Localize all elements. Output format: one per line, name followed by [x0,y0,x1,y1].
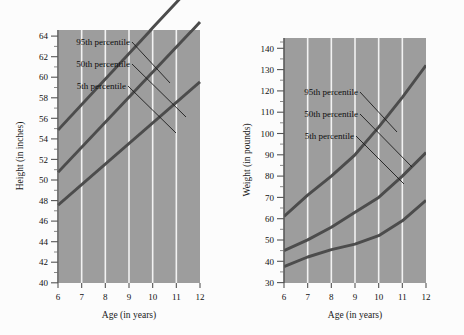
y-tick-label: 40 [39,278,49,288]
x-tick-label: 8 [103,292,108,302]
y-tick-label: 140 [261,44,275,54]
height-y-axis [51,30,58,283]
y-tick-label: 56 [39,114,49,124]
y-tick-label: 30 [265,278,275,288]
y-tick-label: 110 [261,107,275,117]
y-tick-label: 70 [265,193,275,203]
weight-x-tick-labels: 6 7 8 9 10 11 12 [282,292,431,302]
x-tick-label: 7 [79,292,84,302]
y-tick-label: 46 [39,216,49,226]
weight-x-axis [284,283,426,288]
y-tick-label: 50 [265,235,275,245]
y-tick-label: 48 [39,196,49,206]
x-tick-label: 12 [422,292,431,302]
y-tick-label: 60 [265,214,275,224]
x-tick-label: 10 [374,292,384,302]
height-chart-svg: 64 62 60 58 56 54 52 50 48 46 44 42 40 H… [0,0,232,335]
y-tick-label: 120 [261,86,275,96]
x-tick-label: 11 [172,292,181,302]
x-tick-label: 7 [305,292,310,302]
weight-x-axis-label: Age (in years) [328,310,382,321]
y-tick-label: 62 [39,52,48,62]
y-tick-label: 60 [39,72,49,82]
x-tick-label: 9 [353,292,358,302]
y-tick-label: 42 [39,257,48,267]
weight-chart-panel: 140 130 120 110 100 90 80 70 60 50 40 30… [232,0,464,335]
y-tick-label: 90 [265,150,275,160]
y-tick-label: 50 [39,175,49,185]
x-tick-label: 10 [148,292,158,302]
height-chart-panel: 64 62 60 58 56 54 52 50 48 46 44 42 40 H… [0,0,232,335]
x-tick-label: 6 [56,292,61,302]
height-annotation-50th: 50th percentile [76,59,130,69]
x-tick-label: 6 [282,292,287,302]
weight-annotation-5th: 5th percentile [305,131,354,141]
x-tick-label: 8 [329,292,334,302]
y-tick-label: 100 [261,129,275,139]
y-tick-label: 64 [39,31,49,41]
height-y-tick-labels: 64 62 60 58 56 54 52 50 48 46 44 42 40 [39,31,49,288]
height-x-tick-labels: 6 7 8 9 10 11 12 [56,292,205,302]
y-tick-label: 52 [39,155,48,165]
height-annotation-95th: 95th percentile [76,37,130,47]
x-tick-label: 12 [196,292,205,302]
weight-y-axis-label: Weight (in pounds) [242,123,253,196]
weight-y-tick-labels: 140 130 120 110 100 90 80 70 60 50 40 30 [261,44,275,288]
height-annotation-5th: 5th percentile [77,81,126,91]
height-x-axis [58,283,200,288]
height-x-axis-label: Age (in years) [102,310,156,321]
x-tick-label: 11 [398,292,407,302]
y-tick-label: 80 [265,171,275,181]
weight-chart-svg: 140 130 120 110 100 90 80 70 60 50 40 30… [232,0,464,335]
weight-annotation-95th: 95th percentile [304,87,358,97]
height-y-axis-label: Height (in inches) [15,122,26,191]
weight-y-axis [277,38,284,283]
weight-annotation-50th: 50th percentile [304,109,358,119]
y-tick-label: 44 [39,237,49,247]
y-tick-label: 40 [265,257,275,267]
y-tick-label: 58 [39,93,49,103]
y-tick-label: 130 [261,65,275,75]
y-tick-label: 54 [39,134,49,144]
growth-charts-figure: 64 62 60 58 56 54 52 50 48 46 44 42 40 H… [0,0,464,335]
x-tick-label: 9 [127,292,132,302]
